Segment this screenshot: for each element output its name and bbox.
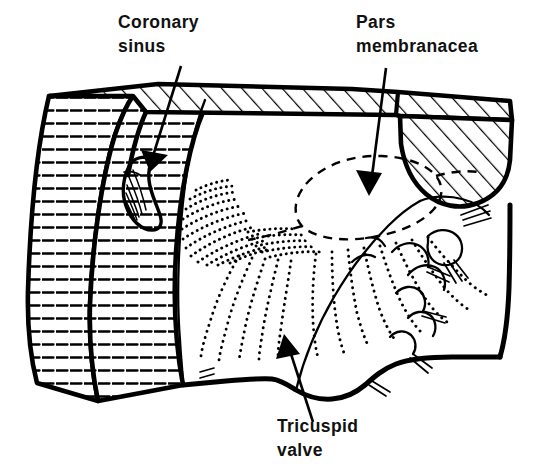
tricuspid-valve-label-line1: Tricuspid	[277, 416, 358, 436]
coronary-sinus-label-line1: Coronary	[118, 12, 199, 32]
heart-chamber-diagram: Coronary sinus Pars membranacea Tricuspi…	[0, 0, 534, 475]
coronary-sinus-label-line2: sinus	[118, 36, 166, 56]
pars-membranacea-label-line2: membranacea	[356, 36, 478, 56]
pars-membranacea-label-line1: Pars	[356, 12, 396, 32]
anatomical-figure: Coronary sinus Pars membranacea Tricuspi…	[0, 0, 534, 475]
top-band-notch	[396, 92, 398, 115]
tricuspid-valve-label-line2: valve	[277, 440, 323, 460]
